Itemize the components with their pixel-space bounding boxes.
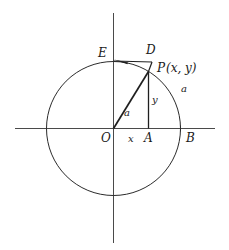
label-point-a: A: [144, 132, 153, 144]
label-point-d: D: [146, 44, 156, 56]
label-radius-inner-a: a: [124, 108, 130, 118]
label-point-p-coordinates: (x, y): [166, 62, 197, 74]
label-point-e: E: [98, 47, 107, 59]
label-point-b: B: [186, 132, 195, 144]
label-point-p: P: [157, 62, 165, 74]
label-origin-o: O: [101, 132, 111, 144]
segment-dp: [149, 62, 153, 72]
label-segment-x: x: [128, 134, 134, 144]
label-radius-outer-a: a: [181, 84, 187, 94]
geometry-figure: E D P (x, y) y a a O x A B: [0, 0, 229, 250]
radius-segment-op: [114, 72, 149, 129]
figure-canvas: [0, 0, 229, 250]
label-segment-y: y: [152, 95, 158, 105]
